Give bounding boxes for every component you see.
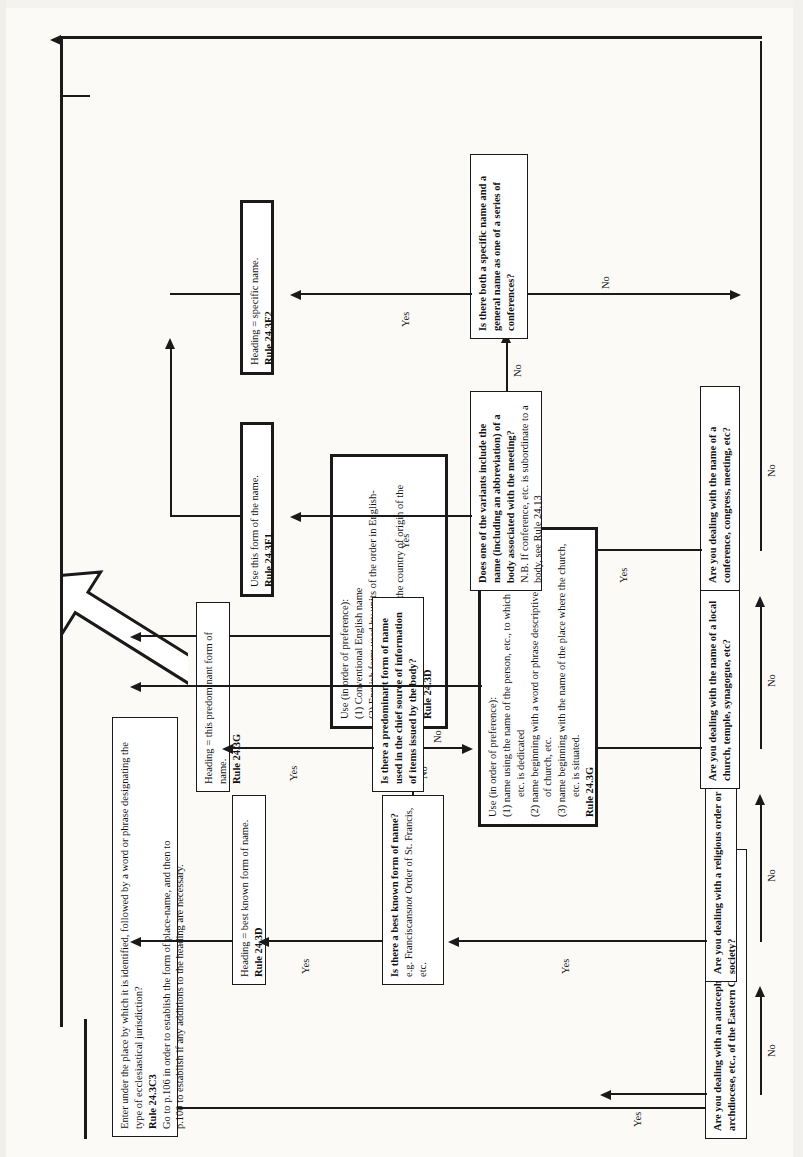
question-local-church-label: Are you dealing with the name of a local… (707, 601, 732, 781)
action-box-use-this-form[interactable]: Use this form of the name. Rule 24.3F1 (240, 422, 274, 597)
d2-no-label: No (432, 730, 443, 743)
decision-best-known-example-italic: not (403, 896, 414, 909)
q2-yes-line (458, 940, 707, 942)
flowchart-canvas: Are you dealing with an autocephalous pa… (0, 0, 803, 1157)
d4-no-arrowhead (730, 290, 741, 300)
a6-bus-arrowhead (165, 338, 175, 349)
a3-out-arrowhead (130, 632, 141, 642)
action-enter-under-place-note1: Go to p.106 in order to establish the fo… (160, 725, 174, 1129)
q2-yes-arrowhead (448, 937, 459, 947)
d2-no-arrowhead (462, 744, 473, 754)
d3-no-line (506, 341, 508, 391)
action-heading-best-known-text: Heading = best known form of name. (238, 803, 252, 977)
action-use-this-form-text: Use this form of the name. (248, 432, 262, 587)
a5-out-arrowhead (130, 682, 141, 692)
action-box-heading-best-known[interactable]: Heading = best known form of name. Rule … (232, 795, 266, 985)
right-return-bus (60, 36, 762, 39)
question-box-conference[interactable]: Are you dealing with the name of a confe… (700, 386, 740, 591)
d3-yes-line (300, 515, 472, 517)
action-enter-under-place-rule: Rule 24.3C3 (146, 725, 160, 1129)
top-return-bus (60, 37, 63, 1027)
q1-yes-line (610, 1093, 707, 1095)
q4-no-label: No (766, 464, 777, 477)
decision-box-specific-general[interactable]: Is there both a specific name and a gene… (470, 154, 528, 339)
decision-predominant-label: Is there a predominant form of name used… (379, 612, 418, 784)
action-heading-best-known-rule: Rule 24.3D (252, 803, 266, 977)
q1-no-arrowhead (755, 986, 765, 997)
scanned-flowchart-page: Are you dealing with an autocephalous pa… (0, 0, 803, 1157)
q1-yes-label: Yes (632, 1112, 643, 1127)
return-bus-arrowhead (50, 35, 61, 45)
a5-out-line (140, 685, 482, 687)
spine-line (120, 1107, 720, 1109)
decision-best-known-heading: Is there a best known form of name? (388, 803, 402, 977)
d3-yes-label: Yes (400, 534, 411, 549)
decision-variants-label: Does one of the variants include the nam… (476, 399, 518, 583)
banner-tail-line (84, 1019, 87, 1139)
d4-yes-arrowhead (290, 290, 301, 300)
q3-no-label: No (766, 674, 777, 687)
q2-no-arrowhead (755, 794, 765, 805)
d2-yes-arrowhead (222, 744, 233, 754)
decision-box-best-known[interactable]: Is there a best known form of name? e.g.… (382, 795, 444, 985)
a2-out-line (140, 940, 233, 942)
d4-yes-line (300, 293, 472, 295)
decision-best-known-example-a: e.g. Franciscans (403, 910, 414, 977)
action-order-pref-churches-rule: Rule 24.3G (583, 537, 597, 817)
q4-no-line (760, 41, 762, 551)
d1-yes-arrowhead (258, 937, 269, 947)
d3-yes-arrowhead (290, 512, 301, 522)
a6-out-line (170, 515, 242, 517)
action-heading-predominant-text: Heading = this predominant form of name. (202, 610, 230, 784)
d2-yes-line (232, 747, 374, 749)
d4-no-line (528, 293, 733, 295)
q1-no-line (760, 995, 762, 1095)
question-conference-label: Are you dealing with the name of a confe… (707, 427, 732, 583)
question-box-religious-order[interactable]: Are you dealing with a religious order o… (705, 757, 737, 982)
d3-no-label: No (512, 364, 523, 377)
q1-no-label: No (766, 1044, 777, 1057)
action-order-pref-orders-item-1: (1) Conventional English name (352, 464, 366, 719)
d4-no-label: No (600, 276, 611, 289)
d1-yes-line (268, 940, 382, 942)
a7-out-line (170, 293, 242, 295)
action-heading-specific-rule: Rule 24.3F2 (262, 210, 276, 365)
q3-no-line (760, 604, 762, 749)
action-order-pref-churches-item-3: (3) name beginning with the name of the … (555, 537, 583, 817)
decision-specific-general-label: Is there both a specific name and a gene… (477, 176, 516, 331)
q4-yes-label: Yes (618, 568, 629, 583)
question-box-local-church[interactable]: Are you dealing with the name of a local… (700, 589, 740, 789)
q2-yes-label: Yes (560, 959, 571, 974)
bus-tick-1 (60, 95, 90, 97)
action-use-this-form-rule: Rule 24.3F1 (262, 432, 276, 587)
decision-box-predominant[interactable]: Is there a predominant form of name used… (372, 597, 424, 792)
d4-yes-label: Yes (400, 312, 411, 327)
decision-best-known-example: e.g. Franciscansnot Order of St. Francis… (402, 803, 430, 977)
q2-no-label: No (766, 869, 777, 882)
banner-arrow (60, 527, 188, 727)
action-order-pref-orders-lead: Use (in order of preference): (338, 464, 352, 719)
decision-box-variants[interactable]: Does one of the variants include the nam… (470, 391, 542, 591)
action-enter-under-place-text: Enter under the place by which it is ide… (118, 725, 146, 1129)
action-box-heading-specific[interactable]: Heading = specific name. Rule 24.3F2 (240, 200, 274, 375)
d1-yes-label: Yes (300, 959, 311, 974)
action-enter-under-place-note2: p.100 to establish if any additions to t… (173, 725, 187, 1129)
q1-yes-arrowhead (600, 1090, 611, 1100)
action-box-enter-under-place[interactable]: Enter under the place by which it is ide… (112, 717, 178, 1137)
a6-bus-line (170, 347, 172, 517)
d2-no-line (424, 747, 464, 749)
action-box-heading-predominant[interactable]: Heading = this predominant form of name.… (196, 602, 230, 792)
a2-out-arrowhead (130, 937, 141, 947)
question-religious-order-label: Are you dealing with a religious order o… (712, 792, 737, 974)
action-heading-predominant-rule: Rule 24.3G (230, 610, 244, 784)
d2-yes-label: Yes (288, 766, 299, 781)
q3-no-arrowhead (755, 596, 765, 607)
decision-variants-note: N.B. If conference, etc. is subordinate … (518, 399, 546, 583)
q2-no-line (760, 802, 762, 942)
rotated-diagram-wrapper: Are you dealing with an autocephalous pa… (0, 0, 803, 1157)
action-heading-specific-text: Heading = specific name. (248, 210, 262, 365)
